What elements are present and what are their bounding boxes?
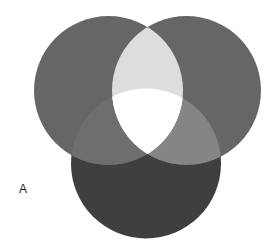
venn-diagram [0,0,275,252]
panel-label: A [19,183,27,195]
